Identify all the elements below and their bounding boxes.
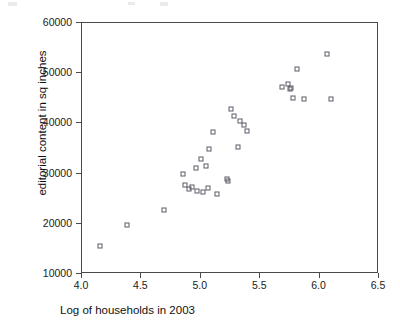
data-point	[207, 147, 212, 152]
data-point	[238, 119, 243, 124]
x-tick-label: 4.5	[120, 280, 160, 291]
scan-artifact	[8, 2, 17, 6]
data-point	[205, 186, 210, 191]
x-tick-mark	[319, 273, 320, 278]
data-point	[210, 130, 215, 135]
data-point	[201, 190, 206, 195]
data-point	[232, 114, 237, 119]
data-point	[324, 51, 329, 56]
data-point	[295, 66, 300, 71]
y-tick-label: 10000	[12, 268, 72, 278]
data-point	[198, 156, 203, 161]
data-point	[224, 177, 229, 182]
y-axis-title: editorial content in sq inches	[36, 18, 48, 228]
x-tick-label: 4.0	[61, 280, 101, 291]
data-point	[180, 172, 185, 177]
x-tick-mark	[200, 273, 201, 278]
x-tick-label: 5.0	[180, 280, 220, 291]
x-tick-label: 6.5	[358, 280, 398, 291]
data-point	[228, 107, 233, 112]
data-point	[203, 164, 208, 169]
data-point	[285, 81, 290, 86]
x-tick-label: 5.5	[239, 280, 279, 291]
data-point	[241, 122, 246, 127]
data-point	[215, 192, 220, 197]
scan-artifact	[128, 2, 135, 5]
data-point	[194, 165, 199, 170]
data-point	[97, 243, 102, 248]
data-point	[186, 187, 191, 192]
data-points-layer	[82, 23, 377, 272]
data-point	[289, 86, 294, 91]
data-point	[329, 97, 334, 102]
data-point	[287, 86, 292, 91]
data-point	[245, 128, 250, 133]
x-tick-mark	[259, 273, 260, 278]
x-axis-title: Log of households in 2003	[60, 304, 195, 316]
scan-artifact	[160, 2, 168, 6]
data-point	[125, 223, 130, 228]
data-point	[226, 178, 231, 183]
data-point	[195, 188, 200, 193]
data-point	[235, 144, 240, 149]
x-tick-mark	[140, 273, 141, 278]
data-point	[161, 208, 166, 213]
x-tick-mark	[378, 273, 379, 278]
plot-area	[81, 22, 378, 273]
data-point	[302, 97, 307, 102]
data-point	[291, 95, 296, 100]
data-point	[183, 183, 188, 188]
scatter-plot-figure: 100002000030000400005000060000 4.04.55.0…	[0, 0, 400, 331]
x-tick-label: 6.0	[299, 280, 339, 291]
data-point	[190, 184, 195, 189]
data-point	[279, 85, 284, 90]
x-tick-mark	[81, 273, 82, 278]
